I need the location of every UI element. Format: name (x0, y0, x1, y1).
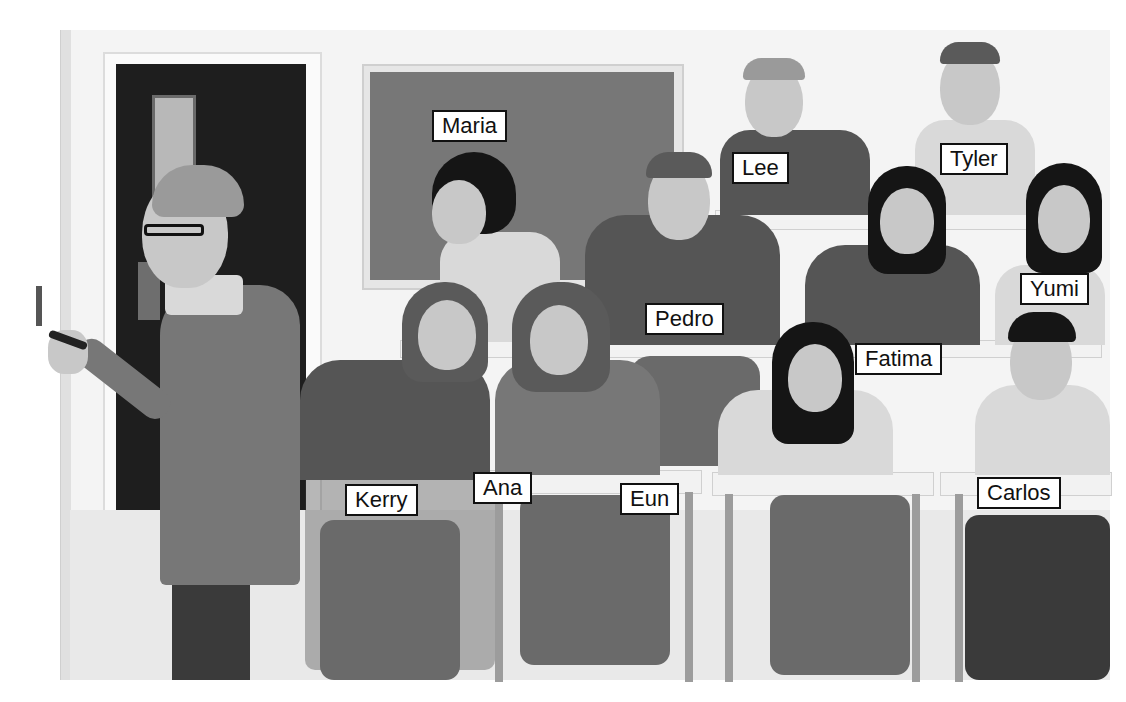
maria-head (432, 180, 486, 244)
pedro-hair (646, 152, 712, 178)
eun-legs (770, 495, 910, 675)
desk-leg (912, 494, 920, 682)
carlos-legs (965, 515, 1110, 680)
label-pedro: Pedro (645, 303, 724, 335)
desk-leg (955, 494, 963, 682)
label-maria: Maria (432, 110, 507, 142)
glasses-icon (144, 224, 204, 236)
desk-leg (685, 492, 693, 682)
label-kerry: Kerry (345, 484, 418, 516)
fatima-head (880, 188, 934, 254)
ana-legs (520, 495, 670, 665)
marker-line (36, 286, 42, 326)
tyler-hair (940, 42, 1000, 64)
desk-leg (495, 492, 503, 682)
carlos-hair (1008, 312, 1076, 342)
label-eun: Eun (620, 483, 679, 515)
lee-hair (743, 58, 805, 80)
kerry-head (418, 300, 476, 370)
desk-leg (725, 494, 733, 682)
label-fatima: Fatima (855, 343, 942, 375)
label-yumi: Yumi (1020, 273, 1089, 305)
ana-head (530, 305, 588, 375)
kerry-legs (320, 520, 460, 680)
label-tyler: Tyler (940, 143, 1008, 175)
teacher-legs (172, 575, 250, 680)
yumi-head (1038, 185, 1090, 253)
label-lee: Lee (732, 152, 789, 184)
label-carlos: Carlos (977, 477, 1061, 509)
label-ana: Ana (473, 472, 532, 504)
teacher-sweater (160, 285, 300, 585)
front-desk-eun (712, 472, 934, 496)
classroom-illustration: Maria Lee Tyler Pedro Yumi Fatima Kerry … (0, 0, 1126, 702)
eun-head (788, 344, 842, 412)
